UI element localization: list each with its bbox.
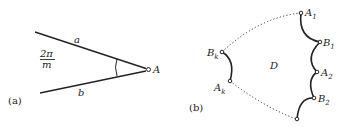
vertex-a-point [147,68,151,72]
point-ak [228,79,232,83]
ray-b [40,71,146,93]
label-a1: A1 [304,7,317,21]
point-bk [220,50,224,54]
angle-numerator: 2π [39,48,53,59]
label-a2: A2 [320,67,333,81]
arc-a2-b2 [311,72,317,98]
arc-bk-ak [222,52,232,81]
dotted-lower-boundary [230,81,296,119]
ray-b-label: b [78,87,84,98]
vertex-label: A [152,64,160,75]
panel-a-caption: (a) [8,95,22,106]
region-d-label: D [269,60,278,71]
angle-arc [116,59,118,76]
label-b2: B2 [317,93,330,107]
label-b1: B1 [322,37,335,51]
figure-canvas: a b 2π m A (a) Bk Ak [0,0,346,127]
arc-b2-end [297,98,314,119]
label-ak: Ak [213,82,225,96]
point-b2 [312,96,316,100]
arc-b1-a2 [311,42,320,72]
angle-denominator: m [42,59,51,70]
point-b1 [318,40,322,44]
point-a1 [299,11,303,15]
ray-a-label: a [74,34,80,45]
panel-b: Bk Ak A1 B1 A2 B2 D (b) [189,7,335,121]
panel-a: a b 2π m A (a) [8,32,160,106]
panel-b-caption: (b) [189,102,203,113]
label-bk: Bk [206,47,219,61]
point-a2 [315,70,319,74]
dotted-upper-boundary [222,13,300,52]
point-end [295,117,299,121]
